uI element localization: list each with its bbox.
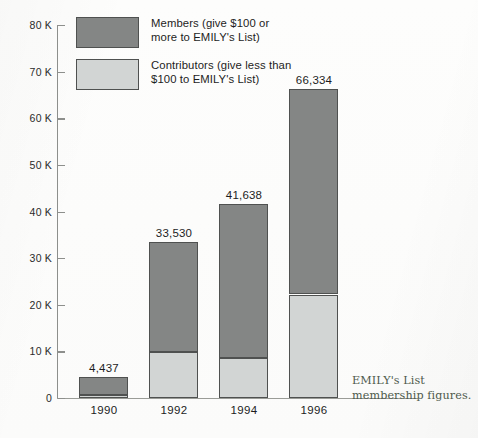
legend-swatch-members-icon — [76, 17, 139, 48]
legend-label-contributors: Contributors (give less than $100 to EMI… — [151, 59, 336, 86]
bar-segment-members-1990[interactable] — [79, 377, 128, 395]
y-tick-label-0: 0 — [16, 392, 52, 404]
y-tick-40k — [58, 212, 65, 213]
y-tick-label-30k: 30 K — [16, 252, 52, 264]
bar-segment-members-1996[interactable] — [289, 89, 338, 295]
y-tick-label-60k-wrap: 60 K — [10, 112, 52, 124]
y-tick-label-80k: 80 K — [16, 19, 52, 31]
y-tick-label-70k: 70 K — [16, 66, 52, 78]
legend-item-contributors[interactable]: Contributors (give less than $100 to EMI… — [76, 59, 326, 92]
y-tick-label-50k-wrap: 50 K — [10, 159, 52, 171]
y-tick-label-10k-wrap: 10 K — [10, 345, 52, 357]
figure-caption: EMILY's List membership figures. — [352, 374, 478, 403]
y-tick-10k — [58, 351, 65, 352]
y-tick-label-40k-wrap: 40 K — [10, 206, 52, 218]
y-tick-80k — [58, 25, 65, 26]
x-tick-label-1992: 1992 — [134, 404, 214, 416]
bar-segment-contributors-1992[interactable] — [149, 352, 198, 398]
y-tick-label-40k: 40 K — [16, 206, 52, 218]
y-tick-70k — [58, 72, 65, 73]
bar-segment-members-1992[interactable] — [149, 242, 198, 353]
y-tick-label-80k-wrap: 80 K — [10, 19, 52, 31]
legend-label-members-line1: Members (give $100 or — [151, 17, 269, 29]
y-tick-label-10k: 10 K — [16, 345, 52, 357]
figure-caption-line1: EMILY's List — [352, 374, 425, 387]
bar-segment-contributors-1996[interactable] — [289, 295, 338, 399]
bar-segment-members-1994[interactable] — [219, 204, 268, 359]
bar-total-label-1992: 33,530 — [134, 227, 214, 239]
chart-legend: Members (give $100 or more to EMILY's Li… — [76, 17, 326, 101]
x-tick-label-1994: 1994 — [204, 404, 284, 416]
y-tick-50k — [58, 165, 65, 166]
y-tick-30k — [58, 258, 65, 259]
y-tick-label-70k-wrap: 70 K — [10, 66, 52, 78]
y-tick-label-20k-wrap: 20 K — [10, 299, 52, 311]
legend-label-contributors-line2: $100 to EMILY's List) — [151, 73, 259, 85]
legend-label-members: Members (give $100 or more to EMILY's Li… — [151, 17, 336, 44]
y-tick-label-0-wrap: 0 — [10, 392, 52, 404]
bar-total-label-1990: 4,437 — [64, 362, 144, 374]
legend-swatch-contributors-icon — [76, 59, 139, 90]
bar-segment-contributors-1994[interactable] — [219, 358, 268, 398]
y-tick-label-60k: 60 K — [16, 112, 52, 124]
y-tick-label-30k-wrap: 30 K — [10, 252, 52, 264]
y-tick-label-50k: 50 K — [16, 159, 52, 171]
y-tick-60k — [58, 118, 65, 119]
y-tick-label-20k: 20 K — [16, 299, 52, 311]
figure-caption-line2: membership figures. — [352, 389, 471, 402]
bar-segment-contributors-1990[interactable] — [79, 395, 128, 398]
legend-label-contributors-line1: Contributors (give less than — [151, 59, 291, 71]
y-tick-20k — [58, 305, 65, 306]
x-tick-label-1996: 1996 — [274, 404, 354, 416]
bar-total-label-1994: 41,638 — [204, 189, 284, 201]
chart-figure: 0 10 K 20 K 30 K 40 K 50 K 60 K 70 K — [0, 0, 478, 438]
legend-label-members-line2: more to EMILY's List) — [151, 31, 260, 43]
y-tick-0 — [58, 398, 65, 399]
legend-item-members[interactable]: Members (give $100 or more to EMILY's Li… — [76, 17, 326, 50]
x-tick-label-1990: 1990 — [64, 404, 144, 416]
